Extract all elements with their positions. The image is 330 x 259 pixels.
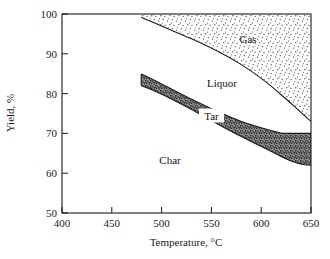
y-tick-label-70: 70 xyxy=(46,127,58,139)
x-tick-label-450: 450 xyxy=(104,217,121,229)
x-tick-label-650: 650 xyxy=(303,217,320,229)
y-tick-label-90: 90 xyxy=(46,48,58,60)
y-tick-label-60: 60 xyxy=(46,167,58,179)
x-tick-label-500: 500 xyxy=(153,217,170,229)
x-tick-label-550: 550 xyxy=(203,217,220,229)
x-tick-label-400: 400 xyxy=(54,217,71,229)
y-tick-label-100: 100 xyxy=(41,8,58,20)
region-label-char: Char xyxy=(159,154,181,166)
region-label-liquor: Liquor xyxy=(207,77,237,89)
x-axis-title: Temperature, °C xyxy=(150,236,223,248)
x-tick-label-600: 600 xyxy=(253,217,270,229)
chart-figure: 100 90 80 70 60 50 400 450 500 550 600 6… xyxy=(0,0,330,259)
yield-vs-temperature-chart: 100 90 80 70 60 50 400 450 500 550 600 6… xyxy=(0,0,330,259)
y-tick-label-80: 80 xyxy=(46,88,58,100)
region-label-gas: Gas xyxy=(239,33,256,45)
region-label-tar: Tar xyxy=(204,110,219,122)
y-axis-title: Yield, % xyxy=(4,94,16,133)
